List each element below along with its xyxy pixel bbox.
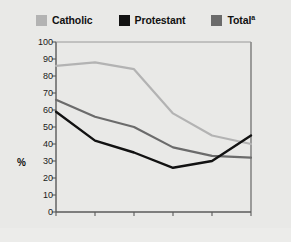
legend-label-protestant: Protestant	[135, 15, 186, 26]
legend-item-total: Totala	[211, 15, 255, 26]
y-tick-label: 20	[27, 174, 53, 183]
y-tick-label: 30	[27, 157, 53, 166]
chart-legend: Catholic Protestant Totala	[0, 12, 291, 28]
figure-bottom-band	[0, 228, 291, 242]
legend-swatch-icon	[211, 15, 222, 26]
chart-figure: Catholic Protestant Totala % 100 90 80 7…	[0, 0, 291, 242]
legend-swatch-icon	[119, 15, 130, 26]
plot-panel	[56, 42, 251, 212]
legend-label-total-text: Total	[227, 14, 251, 26]
legend-footnote-marker: a	[251, 13, 255, 20]
y-tick-label: 80	[27, 72, 53, 81]
y-tick-label: 50	[27, 123, 53, 132]
y-tick-label: 40	[27, 140, 53, 149]
legend-label-total: Totala	[227, 15, 255, 26]
legend-label-catholic: Catholic	[52, 15, 93, 26]
y-tick-label: 90	[27, 55, 53, 64]
y-tick-label: 70	[27, 89, 53, 98]
legend-item-protestant: Protestant	[119, 15, 186, 26]
y-axis-ticks: 100 90 80 70 60 50 40 30 20 10 0	[25, 34, 53, 234]
y-tick-label: 10	[27, 191, 53, 200]
legend-item-catholic: Catholic	[36, 15, 93, 26]
plot-area: % 100 90 80 70 60 50 40 30 20 10 0	[0, 34, 291, 234]
y-tick-label: 0	[27, 208, 53, 217]
y-tick-label: 100	[27, 38, 53, 47]
legend-swatch-icon	[36, 15, 47, 26]
y-tick-label: 60	[27, 106, 53, 115]
